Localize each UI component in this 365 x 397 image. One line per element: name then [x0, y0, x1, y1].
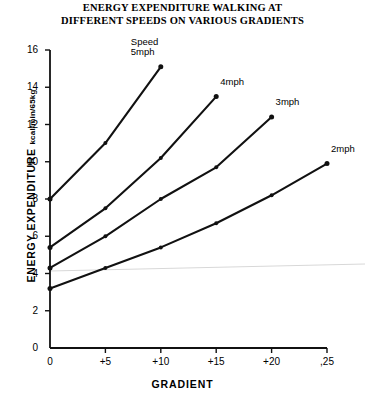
data-point [103, 266, 107, 270]
data-point [103, 141, 107, 145]
x-axis-title: GRADIENT [0, 378, 365, 390]
y-axis-title-text: ENERGY EXPENDITURE [25, 148, 37, 282]
chart-plot-area: 02468101214160+5+10+15+20,25 ENERGY EXPE… [0, 0, 365, 397]
series-label-line: 4mph [220, 77, 244, 88]
data-point [269, 115, 274, 120]
y-axis-title: ENERGY EXPENDITURE kcal/min/65kg [25, 71, 37, 301]
y-tick-label: 2 [12, 305, 38, 316]
series-label-line: 2mph [331, 144, 355, 155]
series-5mph [48, 64, 164, 201]
x-tick-label: +20 [255, 356, 289, 367]
x-tick-label: +10 [144, 356, 178, 367]
chart-canvas [0, 0, 365, 397]
data-point [48, 197, 53, 202]
data-point [103, 234, 107, 238]
data-point [270, 193, 274, 197]
x-tick-label: ,25 [310, 356, 344, 367]
data-point [159, 156, 163, 160]
series-label-line: 5mph [131, 47, 158, 58]
x-tick-label: +5 [88, 356, 122, 367]
data-point [325, 161, 330, 166]
series-label-4mph: 4mph [220, 77, 244, 88]
data-point [48, 265, 53, 270]
series-label-line: 3mph [276, 97, 300, 108]
data-point [214, 94, 219, 99]
y-tick-label: 0 [12, 342, 38, 353]
series-label-5mph: Speed5mph [131, 37, 158, 58]
data-point [214, 221, 218, 225]
data-point [159, 245, 163, 249]
series-label-3mph: 3mph [276, 97, 300, 108]
data-point [48, 245, 53, 250]
data-point [159, 197, 163, 201]
data-point [48, 286, 53, 291]
data-point [214, 165, 218, 169]
x-tick-label: +15 [199, 356, 233, 367]
series-label-2mph: 2mph [331, 144, 355, 155]
series-4mph [48, 94, 219, 250]
y-tick-label: 16 [12, 44, 38, 55]
y-axis-unit-text: kcal/min/65kg [28, 89, 37, 144]
x-tick-label: 0 [33, 356, 67, 367]
data-point [103, 206, 107, 210]
data-point [158, 64, 163, 69]
series-2mph [48, 161, 330, 291]
